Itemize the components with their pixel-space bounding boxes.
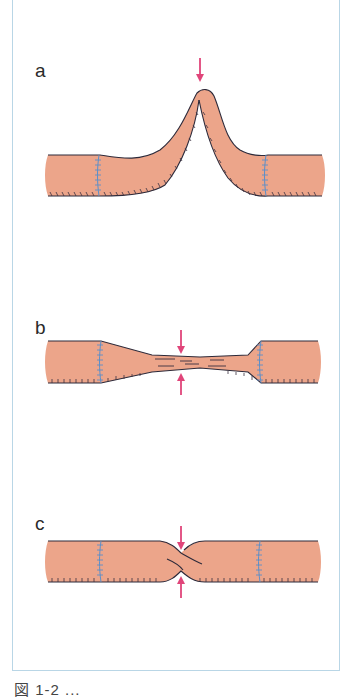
panel-label-b: b [35, 318, 46, 337]
panel-b-tube [45, 330, 321, 395]
figure-caption: 図 1-2 ... [14, 678, 344, 698]
panel-a-tube [45, 58, 325, 196]
panel-label-c: c [35, 514, 45, 533]
panel-label-a: a [35, 61, 46, 80]
panel-c-tube [45, 526, 321, 598]
